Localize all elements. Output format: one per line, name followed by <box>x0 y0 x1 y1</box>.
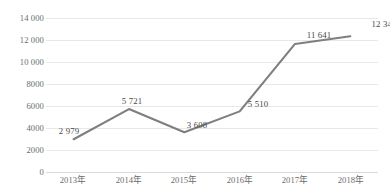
data-label-group: 2 979 5 721 3 608 5 510 11 641 12 344 <box>46 18 378 172</box>
y-axis-tick-label: 4000 <box>0 124 44 133</box>
x-axis-tick-label: 2016年 <box>227 176 254 185</box>
y-axis-tick-label: 2000 <box>0 146 44 155</box>
x-axis: 2013年 2014年 2015年 2016年 2017年 2018年 <box>46 176 378 192</box>
y-axis-tick-label: 8000 <box>0 80 44 89</box>
line-chart: 14 000 12 000 10 000 8000 6000 4000 2000… <box>0 0 390 195</box>
y-axis-tick-label: 0 <box>0 168 44 177</box>
data-label: 5 510 <box>248 100 268 109</box>
x-axis-tick-label: 2013年 <box>60 176 87 185</box>
x-axis-tick-label: 2015年 <box>171 176 198 185</box>
data-label: 5 721 <box>122 97 142 106</box>
y-axis-tick-label: 14 000 <box>0 14 44 23</box>
x-axis-tick-label: 2018年 <box>338 176 365 185</box>
x-axis-tick-label: 2017年 <box>282 176 309 185</box>
data-label: 12 344 <box>372 20 390 29</box>
x-axis-tick-label: 2014年 <box>116 176 143 185</box>
data-label: 11 641 <box>307 31 331 40</box>
y-axis-tick-label: 12 000 <box>0 36 44 45</box>
y-axis: 14 000 12 000 10 000 8000 6000 4000 2000… <box>0 18 44 172</box>
data-label: 3 608 <box>187 121 207 130</box>
axis-baseline <box>46 172 378 173</box>
data-label: 2 979 <box>59 127 79 136</box>
y-axis-tick-label: 10 000 <box>0 58 44 67</box>
y-axis-tick-label: 6000 <box>0 102 44 111</box>
